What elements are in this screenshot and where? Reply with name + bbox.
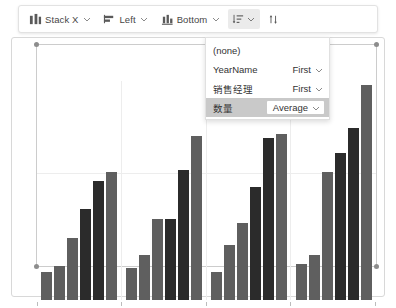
dropdown-row-1[interactable]: YearNameFirst	[206, 60, 329, 79]
chevron-down-icon[interactable]	[313, 83, 324, 94]
toolbar-item-sort-field[interactable]	[228, 9, 260, 29]
align-left-icon	[103, 13, 116, 26]
resize-handle-bottom-left[interactable]	[34, 264, 39, 269]
chevron-down-icon[interactable]	[81, 14, 92, 25]
resize-handle-top-right[interactable]	[374, 42, 379, 47]
toolbar-item-left-label: Left	[119, 14, 135, 25]
bar[interactable]	[348, 128, 359, 300]
dropdown-aggregation-selector[interactable]: First	[293, 83, 324, 94]
dropdown-aggregation-selector[interactable]: First	[293, 64, 324, 75]
resize-handle-top-left[interactable]	[34, 42, 39, 47]
x-axis-label-y2017: Y2017	[37, 302, 122, 308]
dropdown-row-3[interactable]: 数量Average	[206, 98, 329, 117]
toolbar-item-sort-direction[interactable]	[263, 9, 284, 29]
x-axis-label-y2020: Y2020	[291, 302, 376, 308]
stack-x-icon	[29, 13, 42, 26]
toolbar-item-stack-x-label: Stack X	[45, 14, 78, 25]
dropdown-aggregation-selector[interactable]: Average	[267, 101, 324, 114]
bar[interactable]	[191, 136, 202, 300]
bar[interactable]	[126, 268, 137, 300]
resize-handle-bottom-right[interactable]	[374, 264, 379, 269]
bar-group-y2018	[122, 81, 207, 300]
bar[interactable]	[263, 138, 274, 300]
chart-format-toolbar: Stack X Left	[18, 5, 378, 33]
bar[interactable]	[250, 187, 261, 300]
chart-x-axis: Y2017Y2018Y2019Y2020	[37, 302, 376, 308]
bar[interactable]	[224, 245, 235, 300]
axis-tick	[375, 302, 376, 306]
dropdown-row-label: 数量	[213, 101, 267, 115]
dropdown-row-label: YearName	[213, 64, 293, 75]
dropdown-aggregation-label: First	[293, 64, 311, 75]
dropdown-row-label: 销售经理	[213, 82, 293, 96]
bar[interactable]	[322, 172, 333, 300]
toolbar-item-bottom[interactable]: Bottom	[157, 9, 226, 29]
chevron-down-icon[interactable]	[245, 14, 256, 25]
toolbar-item-bottom-label: Bottom	[177, 14, 208, 25]
bar[interactable]	[237, 223, 248, 300]
bar[interactable]	[93, 181, 104, 300]
dropdown-row-label: (none)	[213, 45, 324, 56]
bar[interactable]	[106, 172, 117, 300]
bar[interactable]	[309, 255, 320, 300]
align-bottom-icon	[161, 13, 174, 26]
bar[interactable]	[335, 153, 346, 300]
chevron-down-icon[interactable]	[313, 64, 324, 75]
bar[interactable]	[165, 219, 176, 300]
chevron-down-icon[interactable]	[139, 14, 150, 25]
sort-updown-icon	[267, 13, 280, 26]
dropdown-aggregation-label: Average	[273, 102, 308, 113]
sort-descending-icon	[232, 13, 245, 26]
toolbar-item-left[interactable]: Left	[99, 9, 153, 29]
x-axis-label-y2019: Y2019	[207, 302, 292, 308]
bar[interactable]	[41, 272, 52, 300]
bar[interactable]	[67, 238, 78, 300]
bar[interactable]	[152, 219, 163, 300]
bar[interactable]	[178, 170, 189, 300]
bar[interactable]	[54, 266, 65, 300]
chevron-down-icon[interactable]	[310, 102, 321, 113]
bar[interactable]	[211, 272, 222, 300]
bar[interactable]	[361, 85, 372, 300]
x-axis-label-y2018: Y2018	[122, 302, 207, 308]
bar[interactable]	[139, 255, 150, 300]
toolbar-item-stack-x[interactable]: Stack X	[25, 9, 96, 29]
axis-tick	[37, 302, 38, 306]
dropdown-row-2[interactable]: 销售经理First	[206, 79, 329, 98]
field-aggregation-dropdown[interactable]: (none)YearNameFirst销售经理First数量Average	[205, 37, 330, 120]
bar-group-y2017	[37, 81, 122, 300]
chevron-down-icon[interactable]	[210, 14, 221, 25]
bar[interactable]	[296, 264, 307, 300]
bar[interactable]	[276, 134, 287, 300]
bar[interactable]	[80, 209, 91, 300]
dropdown-aggregation-label: First	[293, 83, 311, 94]
dropdown-row-0[interactable]: (none)	[206, 41, 329, 60]
